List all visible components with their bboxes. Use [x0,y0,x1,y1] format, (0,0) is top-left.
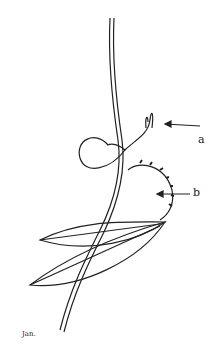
botanical-drawing [0,0,211,355]
label-b: b [193,186,200,199]
tendril-b [128,165,173,220]
label-a: a [198,133,205,146]
signature: Jan. [22,330,36,338]
shoot-a [125,113,153,150]
